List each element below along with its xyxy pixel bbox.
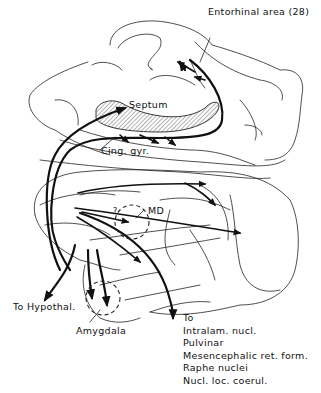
label-to-hypothalamus: To Hypothal.: [13, 301, 75, 312]
target-list: To Intralam. nucl. Pulvinar Mesencephali…: [183, 312, 308, 388]
target-item: Pulvinar: [183, 337, 308, 350]
label-cingulate-gyrus: Cing. gyr.: [101, 145, 149, 156]
target-item: Intralam. nucl.: [183, 325, 308, 338]
leader-lines: [90, 38, 210, 322]
label-to: To: [183, 312, 308, 325]
label-question: ?: [113, 206, 118, 217]
label-entorhinal-area: Entorhinal area (28): [208, 6, 309, 17]
label-septum: Septum: [129, 99, 168, 110]
label-amygdala: Amygdala: [76, 325, 126, 336]
brain-outline: [29, 21, 303, 322]
target-item: Mesencephalic ret. form.: [183, 350, 308, 363]
target-item: Nucl. loc. coerul.: [183, 375, 308, 388]
label-md: MD: [148, 205, 164, 216]
target-item: Raphe nuclei: [183, 362, 308, 375]
